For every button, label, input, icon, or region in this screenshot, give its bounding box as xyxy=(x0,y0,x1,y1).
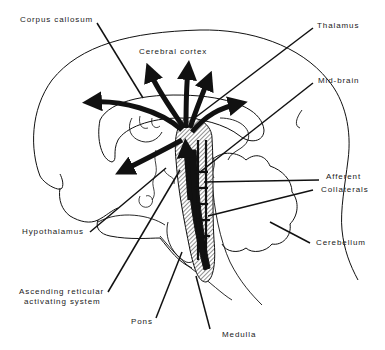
fornix-curve xyxy=(130,118,162,142)
label-afferent: Afferent xyxy=(326,172,361,182)
label-pons: Pons xyxy=(131,317,153,327)
leader-corpus-callosum xyxy=(97,23,143,98)
cortical-projection-arrows xyxy=(92,70,238,200)
leader-medulla xyxy=(196,276,210,329)
fourth-ventricle xyxy=(296,110,302,128)
label-mid-brain: Mid-brain xyxy=(318,76,359,86)
septum-curves xyxy=(139,116,160,128)
leader-afferent xyxy=(204,180,319,182)
cerebellum-outline xyxy=(212,153,297,251)
label-cerebral-cortex: Cerebral cortex xyxy=(139,47,207,57)
label-corpus-callosum: Corpus callosum xyxy=(20,15,93,25)
label-medulla: Medulla xyxy=(222,330,256,340)
leader-thalamus xyxy=(192,28,313,120)
leader-mid-brain xyxy=(200,83,313,172)
frontal-lower-outline xyxy=(40,174,118,222)
label-collaterals: Collaterals xyxy=(321,185,369,195)
label-aras-line2: activating system xyxy=(24,297,101,307)
arrow-superior xyxy=(186,70,188,128)
brainstem-posterior xyxy=(212,180,262,305)
label-hypothalamus: Hypothalamus xyxy=(22,227,84,237)
leader-pons xyxy=(156,252,182,318)
label-thalamus: Thalamus xyxy=(317,21,359,31)
brain-diagram: Corpus callosum Cerebral cortex Thalamus… xyxy=(0,0,385,350)
label-aras-line1: Ascending reticular xyxy=(19,287,104,297)
leader-aras xyxy=(108,170,180,292)
leader-hypothalamus xyxy=(90,168,166,232)
mammillary xyxy=(139,196,153,208)
arrow-inferior-anterior xyxy=(124,140,182,170)
label-cerebellum: Cerebellum xyxy=(316,238,366,248)
